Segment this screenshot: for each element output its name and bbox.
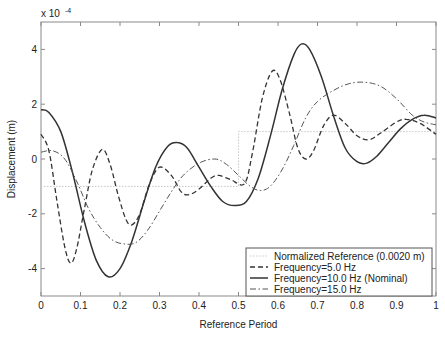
legend-label: Frequency=5.0 Hz xyxy=(274,262,356,273)
y-tick-label: 0 xyxy=(31,154,37,165)
y-scale-exponent: -4 xyxy=(65,7,71,14)
legend-label: Normalized Reference (0.0020 m) xyxy=(274,251,425,262)
x-tick-label: 0.3 xyxy=(153,300,167,311)
x-tick-label: 1 xyxy=(433,300,439,311)
x-tick-label: 0.1 xyxy=(74,300,88,311)
chart: 00.10.20.30.40.50.60.70.80.91-4-2024Refe… xyxy=(0,0,445,337)
y-tick-label: 2 xyxy=(31,99,37,110)
y-tick-label: 4 xyxy=(31,44,37,55)
legend-label: Frequency=10.0 Hz (Nominal) xyxy=(274,273,408,284)
x-tick-label: 0 xyxy=(38,300,44,311)
x-tick-label: 0.8 xyxy=(350,300,364,311)
y-tick-label: -4 xyxy=(28,263,37,274)
y-scale-note: x 10 xyxy=(41,8,60,19)
legend-label: Frequency=15.0 Hz xyxy=(274,284,362,295)
legend: Normalized Reference (0.0020 m)Frequency… xyxy=(246,248,432,296)
x-tick-label: 0.7 xyxy=(311,300,325,311)
x-tick-label: 0.4 xyxy=(192,300,206,311)
x-tick-label: 0.6 xyxy=(271,300,285,311)
x-tick-label: 0.5 xyxy=(232,300,246,311)
x-tick-label: 0.9 xyxy=(390,300,404,311)
y-axis-label: Displacement (m) xyxy=(6,120,17,198)
y-tick-label: -2 xyxy=(28,208,37,219)
x-tick-label: 0.2 xyxy=(113,300,127,311)
x-axis-label: Reference Period xyxy=(200,319,278,330)
